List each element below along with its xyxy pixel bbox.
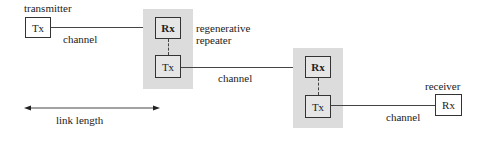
link-length-arrow: [24, 104, 160, 112]
repeater-1-tx-box: Tx: [155, 55, 181, 78]
link-length-label: link length: [56, 114, 103, 126]
channel-line-2: [181, 67, 305, 68]
receiver-rx-box: Rx: [435, 94, 462, 116]
repeater-label-2: repeater: [196, 34, 231, 46]
repeater-label-1: regenerative: [196, 22, 250, 34]
channel-line-1: [51, 27, 155, 28]
channel-label-1: channel: [63, 33, 97, 45]
repeater-2-link: [318, 78, 319, 95]
repeater-1-rx-box: Rx: [155, 17, 181, 39]
repeater-1-link: [168, 39, 169, 55]
channel-label-2: channel: [218, 72, 252, 84]
transmitter-label: transmitter: [24, 2, 72, 14]
channel-line-3: [331, 105, 436, 106]
repeater-2-rx-box: Rx: [305, 56, 331, 78]
channel-label-3: channel: [386, 111, 420, 123]
receiver-label: receiver: [425, 80, 460, 92]
repeater-2-tx-box: Tx: [305, 95, 331, 118]
transmitter-tx-box: Tx: [25, 17, 51, 38]
